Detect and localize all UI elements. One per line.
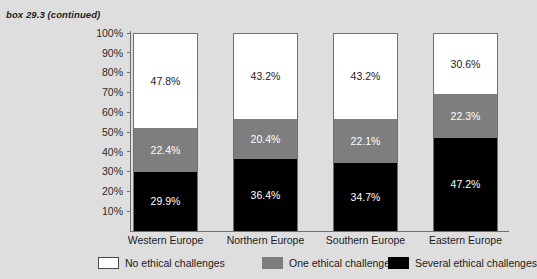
legend-label: One ethical challenge [289,258,390,269]
bar-segment[interactable]: 43.2% [334,34,397,119]
y-axis-tick-label: 100% [96,28,127,39]
bar-segment[interactable]: 29.9% [134,172,197,231]
x-axis-category-label: Southern Europe [316,234,415,246]
y-axis-tick-label: 10% [102,206,127,217]
legend-label: Several ethical challenges [415,258,537,269]
y-axis-tick-label: 20% [102,186,127,197]
y-axis-tick-label: 70% [102,87,127,98]
bar-segment[interactable]: 22.3% [434,94,497,138]
legend-swatch [262,257,283,269]
bar-segment[interactable]: 47.2% [434,138,497,231]
y-axis-tick-label: 30% [102,166,127,177]
bar-stack[interactable]: 30.6%22.3%47.2% [433,33,498,231]
bar-stack[interactable]: 43.2%22.1%34.7% [333,33,398,231]
legend-item[interactable]: One ethical challenge [262,257,390,269]
y-axis-tick-label: 90% [102,48,127,59]
legend-item[interactable]: Several ethical challenges [388,257,537,269]
y-axis-tick-label: 40% [102,147,127,158]
bar-segment[interactable]: 30.6% [434,34,497,94]
chart-legend: No ethical challengesOne ethical challen… [0,253,530,273]
bar-stack[interactable]: 47.8%22.4%29.9% [133,33,198,231]
bar-segment[interactable]: 22.1% [334,119,397,163]
legend-label: No ethical challenges [125,258,225,269]
bar-segment[interactable]: 36.4% [234,159,297,231]
legend-swatch [98,257,119,269]
y-axis-tick-label: 60% [102,107,127,118]
x-axis-category-label: Eastern Europe [416,234,515,246]
bar-stack[interactable]: 43.2%20.4%36.4% [233,33,298,231]
bar-segment[interactable]: 47.8% [134,34,197,128]
plot-area: 47.8%22.4%29.9%43.2%20.4%36.4%43.2%22.1%… [131,33,508,231]
x-axis-category-label: Northern Europe [216,234,315,246]
legend-item[interactable]: No ethical challenges [98,257,225,269]
y-axis-tick-label: 80% [102,67,127,78]
bar-segment[interactable]: 43.2% [234,34,297,119]
legend-swatch [388,257,409,269]
figure-caption: box 29.3 (continued) [6,9,100,20]
bar-segment[interactable]: 34.7% [334,163,397,231]
bar-segment[interactable]: 22.4% [134,128,197,172]
x-axis-category-label: Western Europe [116,234,215,246]
bar-segment[interactable]: 20.4% [234,119,297,159]
y-axis-tick-label: 50% [102,127,127,138]
